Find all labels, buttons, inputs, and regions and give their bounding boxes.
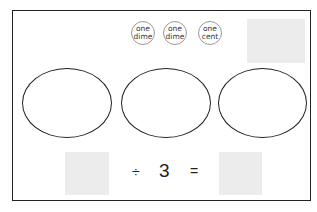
group-oval-2[interactable]	[121, 68, 211, 138]
coin-cent[interactable]: one cent	[198, 21, 222, 45]
equals-sign: =	[190, 163, 198, 179]
coin-dime-1[interactable]: one dime	[131, 21, 155, 45]
coin-dime-2[interactable]: one dime	[163, 21, 187, 45]
group-oval-1[interactable]	[22, 68, 112, 138]
quotient-answer-box[interactable]	[219, 152, 262, 195]
group-oval-3[interactable]	[218, 68, 307, 138]
divisor-value: 3	[159, 160, 170, 182]
coin-label: cent	[202, 33, 218, 41]
dividend-answer-box[interactable]	[65, 152, 109, 195]
coin-label: dime	[166, 33, 185, 41]
divide-sign: ÷	[132, 164, 140, 180]
total-answer-box[interactable]	[247, 19, 305, 63]
coin-label: dime	[134, 33, 153, 41]
